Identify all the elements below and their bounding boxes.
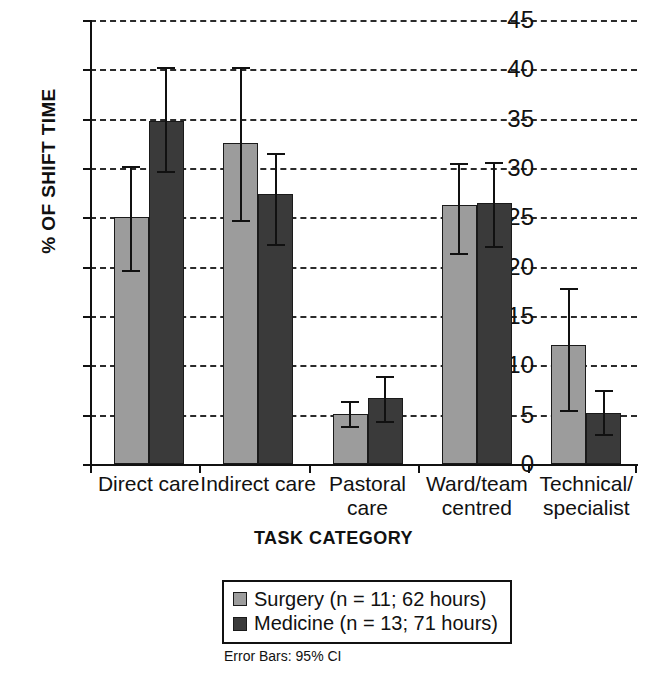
error-bar-cap-lower-medicine-2: [376, 421, 394, 423]
error-bar-line-surgery-2: [349, 401, 351, 426]
error-bar-line-medicine-1: [275, 153, 277, 244]
y-tick-mark-10: [83, 365, 92, 367]
x-axis-title: TASK CATEGORY: [0, 528, 667, 549]
legend-item-medicine: Medicine (n = 13; 71 hours): [233, 611, 498, 635]
error-bar-cap-lower-medicine-3: [485, 246, 503, 248]
y-tick-label-45: 45: [474, 8, 534, 32]
y-tick-mark-15: [83, 316, 92, 318]
error-bar-cap-upper-medicine-0: [157, 67, 175, 69]
legend-swatch-surgery-icon: [233, 592, 247, 606]
category-label-4: Technical/ specialist: [520, 472, 653, 519]
error-bar-cap-lower-medicine-1: [267, 244, 285, 246]
y-tick-label-35: 35: [474, 107, 534, 131]
y-tick-mark-40: [83, 69, 92, 71]
y-tick-label-30: 30: [474, 156, 534, 180]
error-bar-cap-lower-surgery-3: [450, 253, 468, 255]
y-axis-line: [90, 20, 92, 465]
error-bar-cap-upper-medicine-2: [376, 376, 394, 378]
y-axis-title: % OF SHIFT TIME: [38, 26, 60, 316]
legend-item-surgery: Surgery (n = 11; 62 hours): [233, 587, 498, 611]
bar-chart-figure: % OF SHIFT TIME 051015202530354045 Direc…: [0, 0, 667, 687]
error-bars-note: Error Bars: 95% CI: [224, 648, 341, 664]
error-bar-line-medicine-4: [603, 390, 605, 434]
error-bar-cap-lower-surgery-0: [122, 270, 140, 272]
y-tick-mark-25: [83, 217, 92, 219]
legend-label-medicine: Medicine (n = 13; 71 hours): [254, 611, 498, 635]
y-tick-mark-20: [83, 267, 92, 269]
error-bar-line-surgery-0: [130, 166, 132, 270]
error-bar-cap-upper-surgery-3: [450, 163, 468, 165]
error-bar-line-medicine-0: [165, 67, 167, 171]
legend-label-surgery: Surgery (n = 11; 62 hours): [254, 587, 487, 611]
error-bar-cap-lower-medicine-0: [157, 171, 175, 173]
y-tick-mark-5: [83, 415, 92, 417]
y-tick-mark-35: [83, 119, 92, 121]
error-bar-cap-upper-medicine-1: [267, 153, 285, 155]
y-tick-mark-30: [83, 168, 92, 170]
y-tick-mark-45: [83, 20, 92, 22]
error-bar-cap-lower-surgery-2: [341, 426, 359, 428]
error-bar-line-surgery-3: [458, 163, 460, 253]
x-axis-line: [90, 464, 638, 466]
error-bar-cap-lower-surgery-4: [560, 410, 578, 412]
error-bar-line-surgery-4: [568, 288, 570, 409]
gridline-45: [90, 20, 637, 22]
error-bar-cap-lower-surgery-1: [232, 220, 250, 222]
error-bar-line-surgery-1: [240, 67, 242, 220]
error-bar-cap-upper-surgery-0: [122, 166, 140, 168]
error-bar-line-medicine-3: [493, 162, 495, 246]
gridline-40: [90, 69, 637, 71]
legend: Surgery (n = 11; 62 hours) Medicine (n =…: [222, 580, 512, 644]
error-bar-cap-upper-surgery-1: [232, 67, 250, 69]
error-bar-cap-lower-medicine-4: [595, 434, 613, 436]
error-bar-cap-upper-surgery-2: [341, 401, 359, 403]
error-bar-cap-upper-surgery-4: [560, 288, 578, 290]
error-bar-cap-upper-medicine-4: [595, 390, 613, 392]
plot-area: 051015202530354045: [90, 20, 637, 464]
y-tick-label-40: 40: [474, 57, 534, 81]
legend-swatch-medicine-icon: [233, 617, 247, 631]
error-bar-line-medicine-2: [384, 376, 386, 420]
error-bar-cap-upper-medicine-3: [485, 162, 503, 164]
